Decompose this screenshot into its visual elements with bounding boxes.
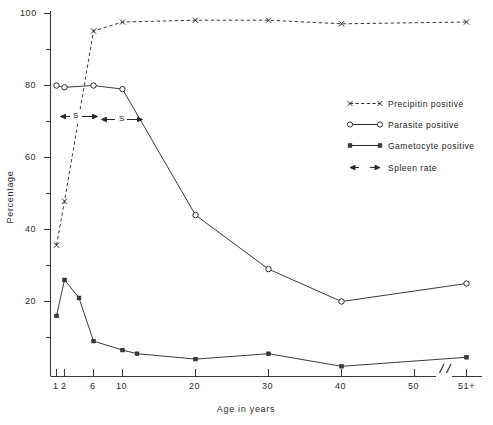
legend-sample-precipitin	[348, 101, 383, 106]
y-tick-label-20: 20	[25, 296, 36, 306]
series-gametocyte-positive	[55, 278, 469, 368]
x-tick-label-50: 50	[408, 381, 419, 391]
y-tick-label-40: 40	[25, 224, 36, 234]
y-axis-ticks	[44, 14, 51, 338]
x-axis-title: Age in years	[186, 404, 306, 414]
axis-lines	[51, 11, 483, 377]
legend-label-parasite-positive: Parasite positive	[388, 120, 459, 130]
precipitin-markers	[54, 18, 469, 248]
legend-label-precipitin-positive: Precipitin positive	[388, 99, 464, 109]
x-tick-label-1: 1	[53, 381, 59, 391]
y-tick-label-80: 80	[25, 80, 36, 90]
legend-label-spleen-rate: Spleen rate	[388, 163, 437, 173]
y-axis-title: Percentage	[5, 166, 15, 228]
x-tick-label-51plus: 51+	[458, 381, 475, 391]
spleen-rate-label-1: S	[73, 111, 78, 120]
spleen-rate-annotation-1	[61, 111, 98, 122]
y-tick-label-60: 60	[25, 152, 36, 162]
x-tick-label-20: 20	[189, 381, 200, 391]
x-tick-label-10: 10	[116, 381, 127, 391]
x-tick-label-30: 30	[262, 381, 273, 391]
legend-label-gametocyte-positive: Gametocyte positive	[388, 141, 475, 151]
x-tick-label-2: 2	[61, 381, 67, 391]
legend-sample-gametocyte	[348, 144, 382, 148]
x-axis-ticks	[57, 369, 467, 377]
chart-figure: 100 80 60 40 20 1 2 6 10 20 30 40 50 51+…	[0, 0, 493, 425]
spleen-rate-label-2: S	[119, 114, 124, 123]
legend-sample-spleen-rate	[350, 162, 380, 173]
legend-sample-parasite	[347, 122, 382, 127]
series-precipitin-positive	[54, 18, 469, 248]
x-tick-label-6: 6	[90, 381, 96, 391]
y-tick-label-100: 100	[20, 8, 37, 18]
x-tick-label-40: 40	[335, 381, 346, 391]
axis-break-mask	[436, 373, 452, 380]
chart-plot-area	[0, 0, 493, 425]
